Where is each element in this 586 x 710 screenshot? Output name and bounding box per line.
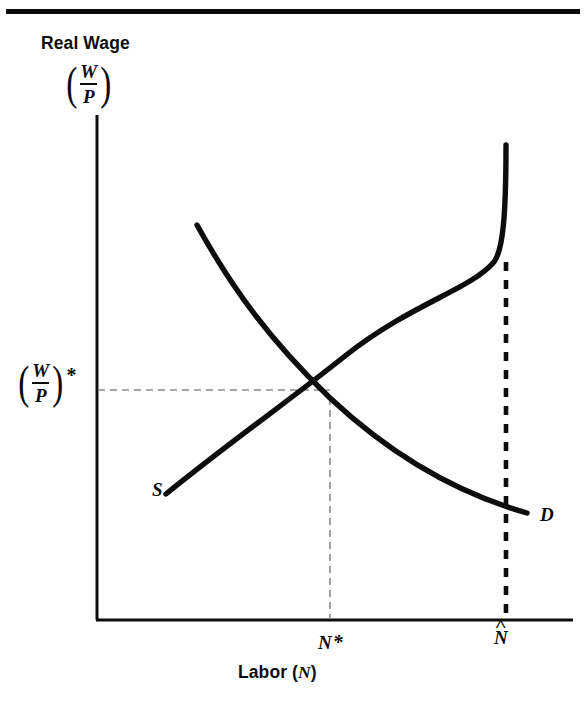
supply-curve — [166, 145, 506, 494]
plot-area — [0, 0, 586, 710]
demand-curve — [197, 225, 527, 513]
labor-market-figure: Real Wage ( W P ) ( W P ) * S D N* — [0, 0, 586, 710]
